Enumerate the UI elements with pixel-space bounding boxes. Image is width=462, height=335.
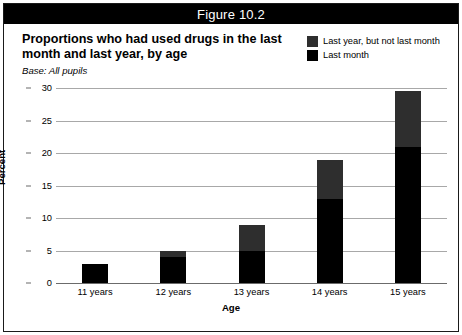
y-tick-mark (26, 218, 31, 219)
x-tick-label: 13 years (234, 287, 270, 297)
plot-wrapper: 051015202530 Percent Age 11 years12 year… (0, 0, 462, 335)
x-axis-line (56, 283, 447, 284)
bar-segment (82, 264, 108, 284)
x-tick-label: 14 years (312, 287, 348, 297)
bar-group (317, 160, 343, 284)
figure-panel: Figure 10.2 Proportions who had used dru… (0, 0, 462, 335)
y-tick-mark (26, 250, 31, 251)
y-tick-label: 20 (30, 148, 52, 158)
plot-area (56, 88, 447, 283)
bar-segment (395, 147, 421, 284)
bar-segment (317, 199, 343, 284)
bar-segment (239, 251, 265, 284)
x-tick-label: 11 years (78, 287, 113, 297)
y-tick-label: 10 (30, 213, 52, 223)
x-tick-label: 15 years (390, 287, 426, 297)
y-tick-mark (26, 153, 31, 154)
bar-group (395, 91, 421, 283)
y-tick-label: 25 (30, 116, 52, 126)
gridline (56, 186, 447, 187)
bar-segment (160, 257, 186, 283)
x-axis-label: Age (0, 302, 462, 313)
bar-group (160, 251, 186, 284)
gridline (56, 153, 447, 154)
y-tick-mark (26, 120, 31, 121)
y-tick-label: 0 (30, 278, 52, 288)
y-axis-label: Percent (0, 150, 7, 185)
y-tick-label: 30 (30, 83, 52, 93)
gridline (56, 121, 447, 122)
y-tick-label: 15 (30, 181, 52, 191)
bar-segment (395, 91, 421, 146)
gridline (56, 218, 447, 219)
bar-segment (317, 160, 343, 199)
bar-group (82, 264, 108, 284)
y-tick-label: 5 (30, 246, 52, 256)
gridline (56, 88, 447, 89)
y-tick-mark (26, 185, 31, 186)
bar-segment (239, 225, 265, 251)
x-tick-label: 12 years (155, 287, 191, 297)
y-tick-mark (26, 283, 31, 284)
y-tick-mark (26, 88, 31, 89)
bar-group (239, 225, 265, 284)
